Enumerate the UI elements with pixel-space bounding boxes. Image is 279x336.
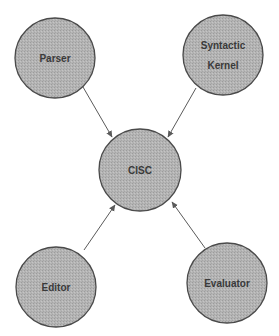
syntactic-kernel-label-line1: Syntactic: [201, 40, 246, 51]
node-syntactic-kernel: Syntactic Kernel: [183, 15, 263, 95]
edge-parser-to-cisc: [83, 87, 112, 137]
edge-evaluator-to-cisc: [172, 202, 205, 248]
editor-label: Editor: [42, 282, 71, 293]
node-editor: Editor: [16, 247, 96, 327]
cisc-label: CISC: [128, 165, 152, 176]
evaluator-label: Evaluator: [204, 278, 250, 289]
node-evaluator: Evaluator: [187, 243, 267, 323]
parser-label: Parser: [39, 53, 70, 64]
architecture-diagram: Parser Syntactic Kernel CISC Editor Eval…: [0, 0, 279, 336]
edge-kernel-to-cisc: [168, 88, 196, 137]
syntactic-kernel-label-line2: Kernel: [207, 60, 238, 71]
edge-editor-to-cisc: [84, 205, 115, 250]
node-cisc: CISC: [99, 129, 181, 211]
syntactic-kernel-circle: [183, 15, 263, 95]
node-parser: Parser: [15, 18, 95, 98]
